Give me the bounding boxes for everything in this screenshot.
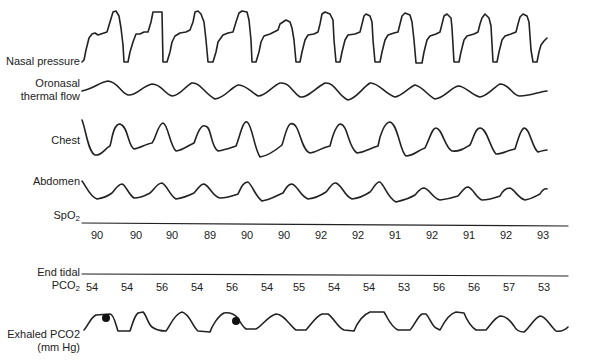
- chest-trace: [82, 120, 547, 157]
- marker-dot: [232, 317, 240, 325]
- etco2-value: 55: [293, 281, 305, 293]
- spo2-value: 90: [91, 229, 103, 241]
- spo2-value: 92: [315, 229, 327, 241]
- etco2-value: 54: [363, 281, 375, 293]
- spo2-value: 92: [426, 229, 438, 241]
- etco2-value: 56: [156, 281, 168, 293]
- etco2-value: 56: [433, 281, 445, 293]
- spo2-value: 90: [241, 229, 253, 241]
- spo2-value: 91: [389, 229, 401, 241]
- spo2-baseline: [82, 223, 568, 226]
- etco2-value: 54: [328, 281, 340, 293]
- marker-dot: [102, 314, 110, 322]
- etco2-value: 54: [261, 281, 273, 293]
- waveform-canvas: [0, 0, 589, 364]
- abdomen-trace: [82, 181, 547, 202]
- spo2-value: 90: [166, 229, 178, 241]
- etco2-value: 54: [191, 281, 203, 293]
- etco2-baseline: [82, 274, 568, 276]
- exhaled-pco2-trace: [84, 312, 568, 332]
- spo2-value: 89: [204, 229, 216, 241]
- spo2-value: 90: [130, 229, 142, 241]
- oronasal-flow-trace: [82, 81, 547, 100]
- etco2-value: 57: [503, 281, 515, 293]
- etco2-value: 56: [468, 281, 480, 293]
- etco2-value: 56: [226, 281, 238, 293]
- spo2-value: 92: [500, 229, 512, 241]
- nasal-pressure-trace: [82, 11, 547, 63]
- etco2-value: 53: [398, 281, 410, 293]
- etco2-value: 54: [86, 281, 98, 293]
- etco2-value: 54: [121, 281, 133, 293]
- spo2-value: 92: [352, 229, 364, 241]
- spo2-value: 90: [278, 229, 290, 241]
- spo2-value: 93: [537, 229, 549, 241]
- etco2-value: 53: [538, 281, 550, 293]
- spo2-value: 91: [463, 229, 475, 241]
